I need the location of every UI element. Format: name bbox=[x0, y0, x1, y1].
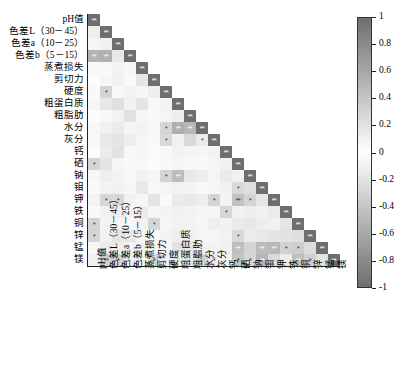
heatmap-cell bbox=[196, 218, 208, 230]
heatmap-cell bbox=[196, 194, 208, 206]
heatmap-cell bbox=[160, 206, 172, 218]
significance-marker: * bbox=[208, 194, 220, 206]
significance-marker: ** bbox=[172, 170, 184, 182]
colorbar-tick bbox=[372, 71, 376, 72]
heatmap-cell bbox=[148, 122, 160, 134]
heatmap-cell bbox=[100, 146, 112, 158]
heatmap-cell bbox=[112, 146, 124, 158]
heatmap-cell bbox=[244, 206, 256, 218]
heatmap-cell bbox=[256, 206, 268, 218]
heatmap-cell: * bbox=[208, 194, 220, 206]
heatmap-cell bbox=[124, 86, 136, 98]
significance-marker: ** bbox=[292, 218, 304, 230]
heatmap-cell bbox=[124, 182, 136, 194]
heatmap-cell bbox=[100, 74, 112, 86]
colorbar-tick-label: -0.6 bbox=[379, 229, 394, 239]
significance-marker: * bbox=[196, 134, 208, 146]
heatmap-cell bbox=[88, 62, 100, 74]
heatmap-cell bbox=[232, 218, 244, 230]
heatmap-cell bbox=[136, 98, 148, 110]
significance-marker: ** bbox=[256, 242, 268, 254]
significance-marker: ** bbox=[172, 122, 184, 134]
heatmap-cell bbox=[208, 182, 220, 194]
heatmap-cell bbox=[184, 146, 196, 158]
heatmap-cell bbox=[172, 146, 184, 158]
heatmap-cell: ** bbox=[256, 242, 268, 254]
heatmap-cell bbox=[124, 170, 136, 182]
heatmap-cell bbox=[100, 38, 112, 50]
heatmap-cell bbox=[184, 194, 196, 206]
significance-marker: ** bbox=[208, 134, 220, 146]
colorbar-tick-label: -0.4 bbox=[379, 202, 394, 212]
significance-marker: ** bbox=[232, 242, 244, 254]
x-axis-tick-label: 铁 bbox=[290, 259, 300, 269]
heatmap-cell bbox=[160, 194, 172, 206]
significance-marker: * bbox=[160, 170, 172, 182]
heatmap-cell bbox=[136, 110, 148, 122]
heatmap-cell bbox=[88, 86, 100, 98]
heatmap-cell: * bbox=[196, 134, 208, 146]
heatmap-cell: ** bbox=[160, 86, 172, 98]
heatmap-cell bbox=[220, 194, 232, 206]
heatmap-cell bbox=[184, 158, 196, 170]
heatmap-cell bbox=[196, 158, 208, 170]
heatmap-cell bbox=[208, 170, 220, 182]
heatmap-cell bbox=[172, 134, 184, 146]
heatmap-cell bbox=[88, 74, 100, 86]
x-axis-tick-label: 锰 bbox=[326, 259, 336, 269]
y-axis-tick-label: 锌 bbox=[74, 231, 84, 241]
heatmap-cell bbox=[148, 194, 160, 206]
y-axis-tick-label: 铁 bbox=[74, 207, 84, 217]
heatmap-cell bbox=[196, 206, 208, 218]
heatmap-cell bbox=[136, 86, 148, 98]
heatmap-cell bbox=[112, 182, 124, 194]
significance-marker: * bbox=[292, 242, 304, 254]
significance-marker: ** bbox=[124, 50, 136, 62]
significance-marker: ** bbox=[280, 206, 292, 218]
heatmap-cell bbox=[112, 170, 124, 182]
significance-marker: ** bbox=[196, 122, 208, 134]
significance-marker: ** bbox=[232, 194, 244, 206]
heatmap-cell: * bbox=[100, 86, 112, 98]
heatmap-cell bbox=[100, 98, 112, 110]
significance-marker: ** bbox=[256, 182, 268, 194]
heatmap-cell bbox=[208, 218, 220, 230]
heatmap-cell: ** bbox=[220, 146, 232, 158]
heatmap-cell: ** bbox=[100, 50, 112, 62]
correlation-heatmap-figure: pH值色差L（30－45）色差a（10－25）色差b（5－15）蒸煮损失剪切力硬… bbox=[0, 0, 411, 376]
heatmap-cell bbox=[88, 110, 100, 122]
heatmap-cell bbox=[208, 230, 220, 242]
heatmap-cell bbox=[112, 134, 124, 146]
significance-marker: * bbox=[232, 230, 244, 242]
heatmap-cell bbox=[100, 110, 112, 122]
heatmap-cell bbox=[196, 182, 208, 194]
y-axis-tick-label: 粗脂肪 bbox=[54, 111, 84, 121]
significance-marker: * bbox=[244, 194, 256, 206]
heatmap-cell bbox=[172, 194, 184, 206]
heatmap-cell bbox=[220, 182, 232, 194]
heatmap-cell bbox=[88, 194, 100, 206]
x-axis-tick-label: 色差L（30－45） bbox=[110, 194, 120, 269]
heatmap-cell bbox=[112, 50, 124, 62]
heatmap-cell bbox=[88, 182, 100, 194]
significance-marker: * bbox=[88, 218, 100, 230]
heatmap-cell bbox=[100, 134, 112, 146]
colorbar-tick-label: 0 bbox=[379, 148, 384, 158]
significance-marker: * bbox=[88, 230, 100, 242]
heatmap-cell bbox=[160, 146, 172, 158]
y-axis-tick-label: 硬度 bbox=[64, 87, 84, 97]
heatmap-cell bbox=[88, 26, 100, 38]
heatmap-cell: ** bbox=[172, 170, 184, 182]
colorbar-tick-label: 0.6 bbox=[379, 66, 391, 76]
x-axis-tick-label: 锌 bbox=[314, 259, 324, 269]
heatmap-cell bbox=[208, 146, 220, 158]
x-axis-tick-label: 镁 bbox=[338, 259, 348, 269]
heatmap-cell bbox=[124, 62, 136, 74]
heatmap-cell bbox=[148, 158, 160, 170]
significance-marker: * bbox=[100, 86, 112, 98]
y-axis-spine bbox=[87, 14, 88, 266]
heatmap-cell: ** bbox=[244, 170, 256, 182]
x-axis-tick-label: 铜 bbox=[302, 259, 312, 269]
colorbar-tick bbox=[372, 234, 376, 235]
heatmap-cell: ** bbox=[136, 62, 148, 74]
